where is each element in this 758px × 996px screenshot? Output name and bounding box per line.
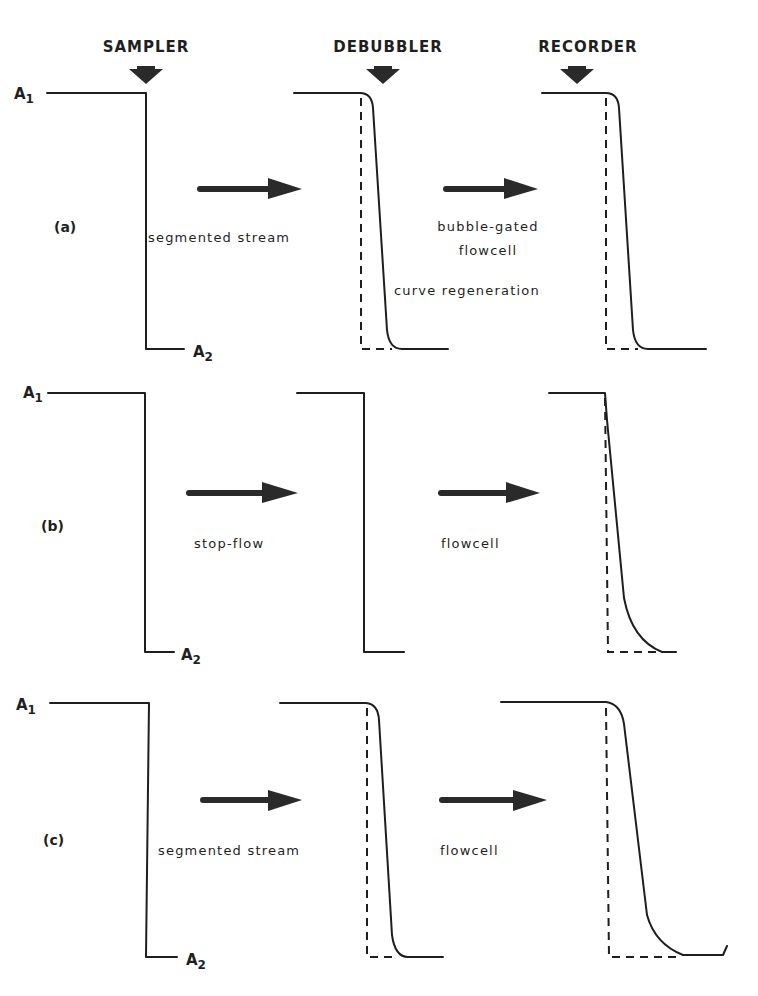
right-arrow-icon: [189, 482, 298, 503]
panel-c: (c) A1 A2 segmented stream flowcell: [16, 696, 727, 972]
sampler-step-curve: [50, 703, 177, 957]
panel-label: (c): [43, 832, 64, 848]
header-debubbler: DEBUBBLER: [333, 38, 443, 56]
down-arrow-icon-debubbler: [366, 66, 400, 84]
header-recorder: RECORDER: [538, 38, 637, 56]
right-arrow-icon: [200, 178, 302, 199]
level-a2-label: A2: [193, 343, 213, 364]
ideal-step-dashed: [606, 708, 678, 957]
level-a1-label: A1: [14, 85, 34, 106]
panel-label: (b): [41, 518, 64, 534]
down-arrow-icon-sampler: [129, 66, 163, 84]
debubbler-step-curve: [294, 93, 448, 349]
down-arrow-icon-recorder: [560, 66, 594, 84]
panel-label: (a): [54, 219, 76, 235]
arrow-caption-line2: flowcell: [459, 243, 518, 258]
level-a2-label: A2: [186, 951, 206, 972]
step-response-diagram: SAMPLER DEBUBBLER RECORDER (a) A1 A2 seg…: [0, 0, 758, 996]
right-arrow-icon: [203, 790, 302, 811]
arrow-caption: flowcell: [441, 536, 500, 551]
debubbler-step-curve: [297, 393, 404, 652]
panel-a: (a) A1 A2 segmented stream bubble-gated …: [14, 85, 706, 364]
recorder-step-curve: [501, 702, 727, 955]
ideal-step-dashed: [367, 708, 398, 957]
level-a2-label: A2: [181, 646, 201, 667]
level-a1-label: A1: [23, 384, 43, 405]
ideal-step-dashed: [606, 98, 638, 349]
recorder-step-curve: [542, 93, 706, 349]
debubbler-step-curve: [280, 703, 443, 957]
right-arrow-icon: [442, 790, 547, 811]
right-arrow-icon: [446, 178, 538, 199]
arrow-caption: segmented stream: [148, 230, 290, 245]
arrow-caption: flowcell: [440, 843, 499, 858]
ideal-step-dashed: [605, 398, 664, 652]
arrow-caption-line3: curve regeneration: [394, 283, 540, 298]
sampler-step-curve: [48, 393, 174, 652]
arrow-caption: segmented stream: [158, 843, 300, 858]
panel-b: (b) A1 A2 stop-flow flowcell: [23, 384, 676, 667]
ideal-step-dashed: [361, 98, 392, 349]
level-a1-label: A1: [16, 696, 36, 717]
recorder-step-curve: [549, 393, 676, 652]
header-sampler: SAMPLER: [103, 38, 190, 56]
arrow-caption-line1: bubble-gated: [437, 219, 538, 234]
right-arrow-icon: [441, 482, 540, 503]
arrow-caption: stop-flow: [194, 536, 264, 551]
